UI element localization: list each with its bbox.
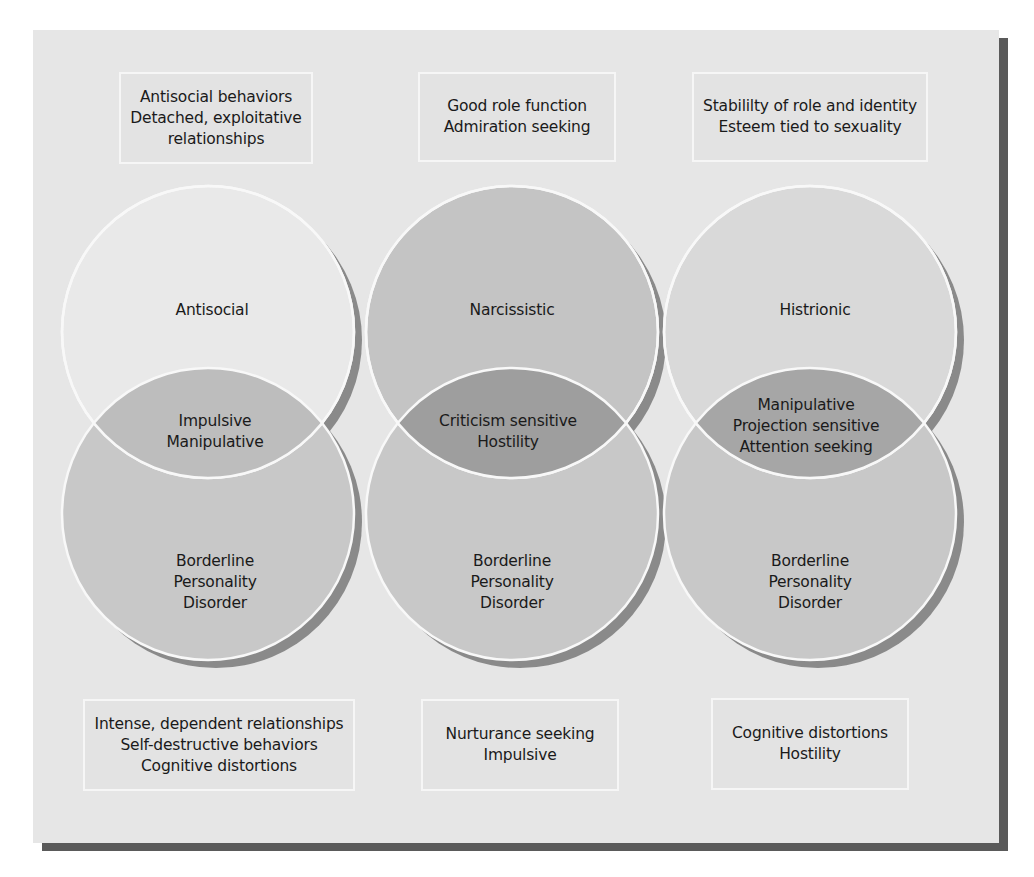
overlap-line: Projection sensitive xyxy=(733,416,879,437)
label-line: Personality xyxy=(470,572,553,593)
borderline-label-1: Borderline Personality Disorder xyxy=(173,551,256,614)
box-line: Nurturance seeking xyxy=(423,724,617,745)
overlap-line: Impulsive xyxy=(166,411,263,432)
label-line: Disorder xyxy=(470,593,553,614)
label-line: Personality xyxy=(768,572,851,593)
overlap-line: Attention seeking xyxy=(733,437,879,458)
label-line: Borderline xyxy=(768,551,851,572)
label-line: Disorder xyxy=(173,593,256,614)
overlap-line: Criticism sensitive xyxy=(439,411,577,432)
overlap-line: Hostility xyxy=(439,432,577,453)
borderline-antisocial-traits-box: Intense, dependent relationships Self-de… xyxy=(83,699,355,791)
histrionic-label: Histrionic xyxy=(780,300,851,321)
borderline-label-3: Borderline Personality Disorder xyxy=(768,551,851,614)
overlap-line: Manipulative xyxy=(733,395,879,416)
box-line: Hostility xyxy=(713,744,907,765)
borderline-histrionic-traits-box: Cognitive distortions Hostility xyxy=(711,698,909,790)
overlap-histrionic-borderline: Manipulative Projection sensitive Attent… xyxy=(733,395,879,458)
box-line: Self-destructive behaviors xyxy=(85,735,353,756)
box-line: Cognitive distortions xyxy=(713,723,907,744)
borderline-label-2: Borderline Personality Disorder xyxy=(470,551,553,614)
label-line: Disorder xyxy=(768,593,851,614)
box-line: Intense, dependent relationships xyxy=(85,714,353,735)
label-line: Borderline xyxy=(470,551,553,572)
antisocial-label: Antisocial xyxy=(175,300,248,321)
label-line: Personality xyxy=(173,572,256,593)
label-line: Borderline xyxy=(173,551,256,572)
overlap-narcissistic-borderline: Criticism sensitive Hostility xyxy=(439,411,577,453)
box-line: Cognitive distortions xyxy=(85,756,353,777)
box-line: Impulsive xyxy=(423,745,617,766)
borderline-narcissistic-traits-box: Nurturance seeking Impulsive xyxy=(421,699,619,791)
narcissistic-label: Narcissistic xyxy=(470,300,555,321)
overlap-line: Manipulative xyxy=(166,432,263,453)
overlap-antisocial-borderline: Impulsive Manipulative xyxy=(166,411,263,453)
